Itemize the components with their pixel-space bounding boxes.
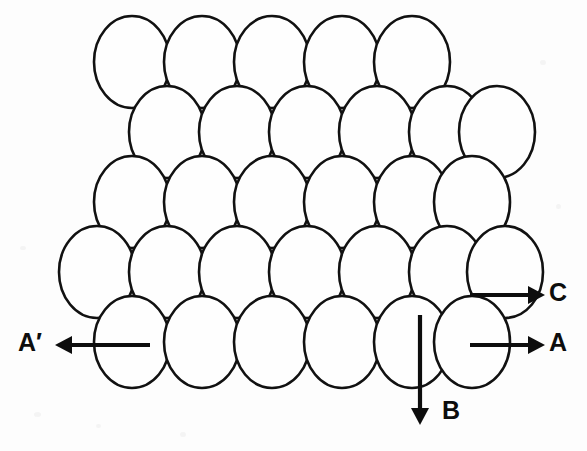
grain-ellipse: [94, 296, 170, 388]
lattice-diagram: Close-packed ellipse lattice with direct…: [0, 0, 587, 451]
vector-b-label: B: [442, 396, 460, 424]
vector-b-arrowhead-icon: [411, 408, 429, 425]
grain-ellipse: [304, 296, 380, 388]
vector-a-prime-arrowhead-icon: [55, 336, 72, 354]
figure-canvas: Close-packed ellipse lattice with direct…: [0, 0, 587, 451]
vector-c-label: C: [549, 278, 567, 306]
grain-ellipse: [234, 296, 310, 388]
vector-a-arrowhead-icon: [528, 336, 545, 354]
grain-ellipse: [164, 296, 240, 388]
grain-ellipse: [434, 296, 510, 388]
vector-a-prime-label: A′: [18, 328, 42, 356]
vector-a-label: A: [549, 328, 567, 356]
ellipse-lattice: [59, 16, 543, 388]
